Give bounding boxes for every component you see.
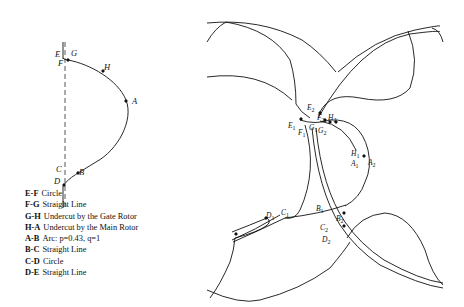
label-b2: B2: [336, 214, 344, 224]
left-profile: [63, 42, 128, 208]
legend-item: F-GStraight Line: [25, 199, 138, 210]
label-b: B: [79, 167, 84, 177]
gate-rotor-lobe-upper: [320, 31, 415, 112]
left-point-labels: E G F H A C B D: [53, 48, 138, 186]
label-e1: E1: [287, 121, 296, 131]
legend-item: B-CStraight Line: [25, 244, 138, 255]
gate-rotor-tip-upper: [432, 28, 443, 42]
label-e2: E2: [306, 103, 315, 113]
label-h1: H1: [350, 149, 359, 159]
legend-item: C-DCircle: [25, 256, 138, 267]
label-d: D: [53, 176, 61, 186]
label-a1: A1: [350, 159, 359, 169]
gate-band-outer-2: [312, 128, 443, 288]
label-c: C: [56, 164, 62, 174]
label-f: F: [57, 58, 64, 68]
label-f2: F2: [316, 113, 325, 123]
rotor-profile-figure: E G F H A C B D E2 F2 H2 E1 F1 G1 G2 H1 …: [0, 0, 464, 307]
label-d2: D2: [321, 235, 330, 245]
profile-curve: [63, 58, 128, 185]
label-g2: G2: [318, 126, 326, 136]
label-h2: H2: [327, 113, 336, 123]
legend-item: G-HUndercut by the Gate Rotor: [25, 211, 138, 222]
label-a2: A2: [367, 158, 376, 168]
lower-outer-arc: [207, 242, 350, 301]
legend-item: H-AUndercut by the Main Rotor: [25, 222, 138, 233]
legend-item: A-BArc: p=0.43, q=1: [25, 233, 138, 244]
gate-band-inner-2: [316, 128, 443, 283]
flank-c1-b1: [233, 205, 346, 242]
legend-item: D-EStraight Line: [25, 267, 138, 278]
label-c1: C1: [281, 208, 289, 218]
main-rotor-inner-arc: [207, 76, 292, 100]
label-h: H: [103, 62, 111, 72]
label-a: A: [131, 96, 138, 106]
meshing-rotors: [207, 22, 443, 301]
legend-item: E-FCircle: [25, 188, 138, 199]
segment-legend: E-FCircle F-GStraight Line G-HUndercut b…: [25, 188, 138, 278]
label-f1: F1: [297, 128, 306, 138]
label-b1: B1: [316, 204, 324, 214]
gate-band-inner-1: [318, 31, 440, 118]
gate-rotor-lobe-lower: [347, 213, 443, 285]
label-g: G: [71, 48, 77, 58]
label-c2: C2: [320, 223, 328, 233]
main-rotor-outer-arc: [207, 22, 336, 72]
gate-band-outer-1: [338, 26, 440, 72]
label-d1: D1: [265, 211, 274, 221]
label-g1: G1: [309, 123, 317, 133]
left-rotor-lower-arc: [285, 125, 310, 218]
